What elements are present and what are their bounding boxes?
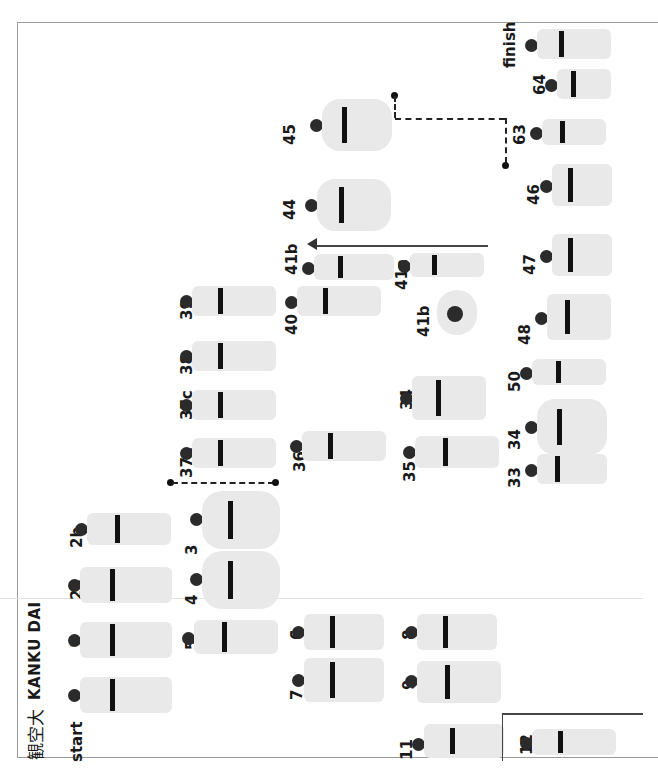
step-label-47: 47 xyxy=(523,254,538,275)
figure-9 xyxy=(405,655,505,710)
figure-41a xyxy=(285,282,385,322)
dashed-connector xyxy=(395,118,505,120)
figure-36 xyxy=(403,430,503,475)
figure-43 xyxy=(302,250,397,286)
step-label-45: 45 xyxy=(283,124,298,145)
connector-dot xyxy=(272,479,279,486)
figure-8 xyxy=(405,608,500,658)
figure-2b xyxy=(75,505,175,555)
section-divider xyxy=(502,713,503,761)
figure-4 xyxy=(190,545,285,615)
step-label-finish: finish xyxy=(503,21,518,68)
figure-48 xyxy=(535,290,615,345)
figure-47 xyxy=(540,230,615,280)
figure-40 xyxy=(180,280,280,324)
dashed-connector xyxy=(505,118,507,163)
figure-38 xyxy=(180,384,280,428)
figure-35 xyxy=(400,370,490,425)
step-label-33: 33 xyxy=(508,467,523,488)
figure-12 xyxy=(520,725,620,760)
step-label-start: start xyxy=(70,721,85,762)
figure-6 xyxy=(292,608,387,658)
figure-64 xyxy=(545,65,615,105)
figure-11 xyxy=(412,720,507,765)
step-label-41b: 41b xyxy=(417,305,432,337)
figure-42 xyxy=(398,250,488,282)
figure-37c xyxy=(180,432,280,476)
step-label-34: 34 xyxy=(508,429,523,450)
section-divider xyxy=(502,713,643,715)
figure-1 xyxy=(68,610,178,670)
figure-44 xyxy=(305,175,395,235)
figure-37a xyxy=(290,425,390,467)
figure-finish xyxy=(525,25,615,65)
figure-5 xyxy=(182,610,282,665)
figure-50 xyxy=(520,355,610,390)
figure-7 xyxy=(292,650,387,710)
figure-46 xyxy=(540,160,615,210)
figure-2a xyxy=(68,555,178,615)
direction-arrow xyxy=(312,245,488,247)
figure-45 xyxy=(310,95,395,155)
arrow-head-icon xyxy=(307,238,317,250)
figure-41b xyxy=(437,290,477,335)
figure-39 xyxy=(180,335,280,379)
figure-34 xyxy=(525,395,610,460)
step-label-48: 48 xyxy=(518,324,533,345)
page-title: KANKU DAI xyxy=(28,601,43,700)
figure-3 xyxy=(190,485,285,555)
figure-63 xyxy=(530,115,610,150)
figure-start xyxy=(68,665,178,725)
dashed-connector xyxy=(172,482,274,484)
title-kanji: 観空大 xyxy=(28,709,45,760)
step-label-63: 63 xyxy=(513,124,528,145)
connector-dot xyxy=(502,162,509,169)
dashed-connector xyxy=(394,96,396,118)
step-label-44: 44 xyxy=(283,199,298,220)
step-label-43: 41b xyxy=(285,243,300,275)
